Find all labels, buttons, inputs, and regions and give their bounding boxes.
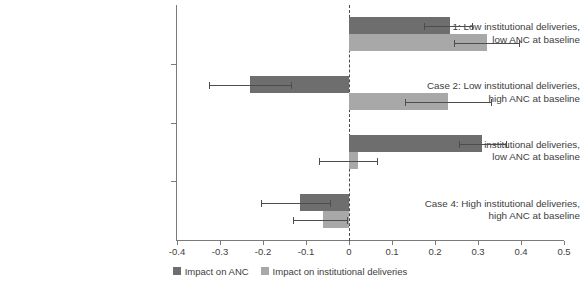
x-axis-tick-label: 0.2: [415, 246, 455, 257]
error-bar-cap: [330, 200, 331, 207]
x-axis-tick-label: 0: [329, 246, 369, 257]
legend-label: Impact on ANC: [185, 266, 249, 277]
error-bar-line: [454, 43, 519, 44]
error-bar-cap: [377, 158, 378, 165]
error-bar-line: [319, 161, 377, 162]
error-bar-cap: [405, 99, 406, 106]
error-bar-cap: [472, 23, 473, 30]
error-bar-line: [209, 85, 291, 86]
legend-swatch-icon: [261, 267, 269, 275]
x-axis-tick-label: 0.3: [458, 246, 498, 257]
error-bar-line: [424, 26, 471, 27]
x-axis-tick-label: -0.1: [286, 246, 326, 257]
error-bar-cap: [293, 217, 294, 224]
y-axis-group-tick: [171, 181, 177, 182]
y-axis-group-tick: [171, 123, 177, 124]
error-bar-cap: [459, 141, 460, 148]
y-axis-group-tick: [171, 64, 177, 65]
x-axis-tick: [478, 241, 479, 245]
x-axis-tick: [220, 241, 221, 245]
error-bar-cap: [347, 217, 348, 224]
error-bar-cap: [209, 82, 210, 89]
error-bar-cap: [506, 141, 507, 148]
error-bar-cap: [291, 82, 292, 89]
error-bar-cap: [491, 99, 492, 106]
category-label-line: low ANC at baseline: [412, 151, 580, 164]
legend-item[interactable]: Impact on institutional deliveries: [261, 265, 408, 277]
x-axis-tick-label: -0.2: [243, 246, 283, 257]
category-label-line: high ANC at baseline: [412, 210, 580, 223]
x-axis-tick: [177, 241, 178, 245]
error-bar-cap: [519, 40, 520, 47]
error-bar-cap: [424, 23, 425, 30]
x-axis-tick-label: -0.3: [200, 246, 240, 257]
x-axis-tick-label: -0.4: [157, 246, 197, 257]
category-label: Case 4: High institutional deliveries,hi…: [412, 198, 580, 223]
x-axis-tick: [263, 241, 264, 245]
legend-swatch-icon: [173, 267, 181, 275]
x-axis-tick: [392, 241, 393, 245]
legend-item[interactable]: Impact on ANC: [173, 265, 249, 277]
x-axis-tick-label: 0.4: [501, 246, 541, 257]
x-axis-tick: [521, 241, 522, 245]
x-axis-tick: [564, 241, 565, 245]
category-label-line: Case 2: Low institutional deliveries,: [412, 80, 580, 93]
error-bar-cap: [454, 40, 455, 47]
error-bar-cap: [319, 158, 320, 165]
error-bar-line: [459, 144, 506, 145]
category-label-line: Case 4: High institutional deliveries,: [412, 198, 580, 211]
x-axis-tick: [349, 241, 350, 245]
x-axis-tick: [435, 241, 436, 245]
error-bar-line: [293, 220, 347, 221]
error-bar-line: [405, 102, 491, 103]
error-bar-line: [261, 203, 330, 204]
legend-label: Impact on institutional deliveries: [273, 266, 408, 277]
x-axis-tick: [306, 241, 307, 245]
chart-legend: Impact on ANCImpact on institutional del…: [0, 265, 580, 277]
error-bar-cap: [261, 200, 262, 207]
x-axis-tick-label: 0.1: [372, 246, 412, 257]
x-axis-spine: [176, 240, 564, 241]
x-axis-tick-label: 0.5: [544, 246, 584, 257]
